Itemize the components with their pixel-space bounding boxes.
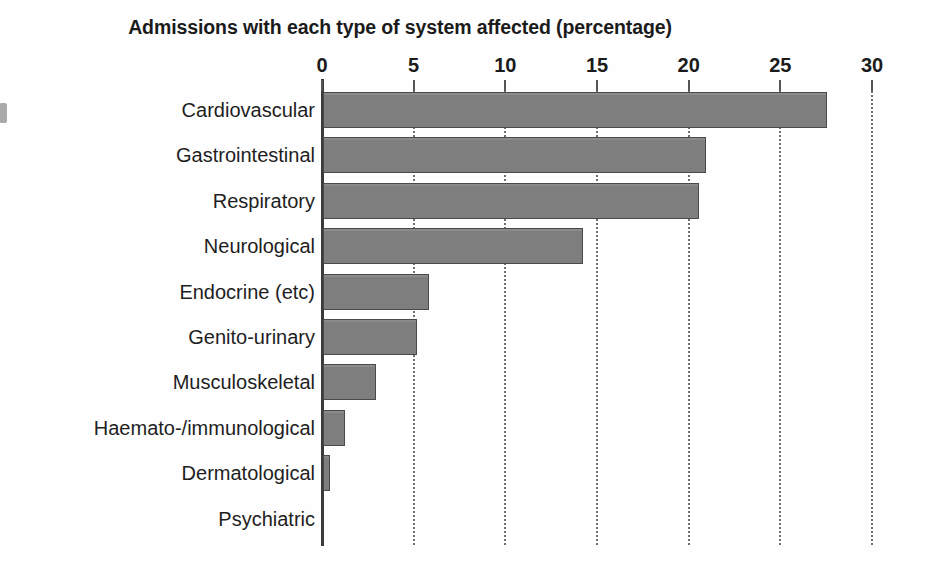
x-axis-tick-label: 5: [408, 54, 419, 77]
bar-chart-figure: Admissions with each type of system affe…: [0, 0, 928, 588]
chart-row: Endocrine (etc): [0, 270, 928, 315]
category-label: Cardiovascular: [182, 88, 315, 133]
plot-area: 051015202530CardiovascularGastrointestin…: [0, 0, 928, 588]
chart-row: Respiratory: [0, 179, 928, 224]
bar: [323, 92, 827, 128]
chart-row: Genito-urinary: [0, 315, 928, 360]
bar: [323, 364, 376, 400]
chart-row: Haemato-/immunological: [0, 406, 928, 451]
x-axis-tick-label: 25: [769, 54, 791, 77]
bar: [323, 228, 583, 264]
x-axis-tick-label: 30: [861, 54, 883, 77]
category-label: Respiratory: [213, 179, 315, 224]
bar: [323, 410, 345, 446]
chart-row: Psychiatric: [0, 497, 928, 542]
bar: [323, 183, 699, 219]
x-axis-tick-label: 20: [678, 54, 700, 77]
chart-row: Neurological: [0, 224, 928, 269]
bar: [323, 137, 706, 173]
category-label: Musculoskeletal: [173, 360, 315, 405]
category-label: Genito-urinary: [188, 315, 315, 360]
chart-row: Gastrointestinal: [0, 133, 928, 178]
bar: [323, 274, 429, 310]
chart-row: Cardiovascular: [0, 88, 928, 133]
category-label: Haemato-/immunological: [94, 406, 315, 451]
chart-row: Musculoskeletal: [0, 360, 928, 405]
category-label: Endocrine (etc): [179, 270, 315, 315]
chart-row: Dermatological: [0, 451, 928, 496]
bar: [323, 319, 417, 355]
x-axis-tick-label: 15: [586, 54, 608, 77]
category-label: Gastrointestinal: [176, 133, 315, 178]
x-axis-tick-label: 0: [316, 54, 327, 77]
bar: [323, 455, 330, 491]
category-label: Psychiatric: [218, 497, 315, 542]
category-label: Dermatological: [182, 451, 315, 496]
category-label: Neurological: [204, 224, 315, 269]
x-axis-tick-label: 10: [494, 54, 516, 77]
